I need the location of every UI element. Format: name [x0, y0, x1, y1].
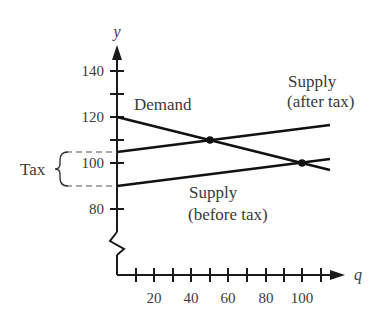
- tax-label: Tax: [20, 160, 46, 179]
- x-tick-label-40: 40: [184, 290, 199, 306]
- equilibrium-point-before-tax: [298, 159, 306, 167]
- supply-demand-chart: 140 120 100 80 20 40 60 80 100 y q Tax D…: [0, 0, 388, 326]
- x-tick-label-20: 20: [147, 290, 162, 306]
- x-tick-label-60: 60: [221, 290, 236, 306]
- tax-brace-icon: [55, 152, 68, 186]
- y-tick-label-120: 120: [82, 109, 105, 125]
- supply-after-label-line1: Supply: [288, 72, 337, 91]
- equilibrium-point-after-tax: [206, 136, 214, 144]
- supply-before-label-line2: (before tax): [188, 205, 268, 224]
- supply-after-label-line2: (after tax): [287, 92, 354, 111]
- x-axis-arrow-icon: [330, 270, 345, 280]
- y-axis-arrow-icon: [112, 45, 122, 60]
- x-axis-label: q: [354, 266, 362, 284]
- y-tick-label-80: 80: [89, 201, 104, 217]
- y-axis-label: y: [111, 23, 121, 41]
- x-tick-label-100: 100: [291, 290, 314, 306]
- supply-before-tax-line: [117, 159, 330, 186]
- y-tick-label-140: 140: [82, 63, 105, 79]
- supply-before-label-line1: Supply: [189, 183, 238, 202]
- demand-label: Demand: [134, 95, 192, 114]
- y-tick-label-100: 100: [82, 155, 105, 171]
- supply-after-tax-line: [117, 125, 330, 152]
- x-tick-label-80: 80: [259, 290, 274, 306]
